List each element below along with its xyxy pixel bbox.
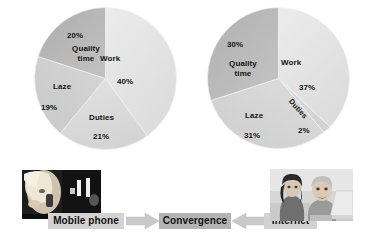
left-label-quality-time: Quality time bbox=[64, 44, 108, 64]
right-value-quality-time: 30% bbox=[227, 40, 243, 50]
right-value-laze: 31% bbox=[244, 131, 260, 141]
internet-photo bbox=[270, 169, 353, 221]
left-label-laze: Laze bbox=[53, 82, 71, 92]
left-value-duties: 21% bbox=[93, 132, 109, 142]
pie-charts-region: Work 40% Duties 21% Laze 19% Quality tim… bbox=[0, 0, 389, 160]
mobile-phone-label-box[interactable]: Mobile phone bbox=[48, 213, 124, 229]
left-label-duties: Duties bbox=[89, 113, 114, 123]
right-label-laze: Laze bbox=[245, 111, 263, 121]
left-pie-chart: Work 40% Duties 21% Laze 19% Quality tim… bbox=[34, 7, 177, 150]
right-label-work: Work bbox=[281, 58, 301, 68]
convergence-label-box[interactable]: Convergence bbox=[159, 213, 231, 229]
convergence-flow-region: Mobile phone Convergence Internet bbox=[0, 160, 389, 243]
left-value-quality-time: 20% bbox=[67, 31, 83, 41]
mobile-phone-photo-graphic bbox=[22, 170, 101, 219]
left-value-work: 40% bbox=[117, 77, 133, 87]
right-value-work: 37% bbox=[299, 83, 315, 93]
left-value-laze: 19% bbox=[41, 103, 57, 113]
arrow-right-icon bbox=[126, 212, 160, 230]
internet-photo-graphic bbox=[270, 169, 353, 221]
arrow-left-icon bbox=[231, 212, 265, 230]
right-value-duties: 2% bbox=[298, 126, 310, 136]
right-label-quality-time: Quality time bbox=[221, 59, 265, 79]
arrow-right-from-mobile bbox=[126, 212, 160, 230]
arrow-left-from-internet bbox=[231, 212, 265, 230]
mobile-phone-photo bbox=[22, 170, 101, 219]
right-pie-chart: Work 37% Duties 2% Laze 31% Quality time… bbox=[207, 7, 350, 150]
left-pie-svg bbox=[34, 7, 177, 150]
